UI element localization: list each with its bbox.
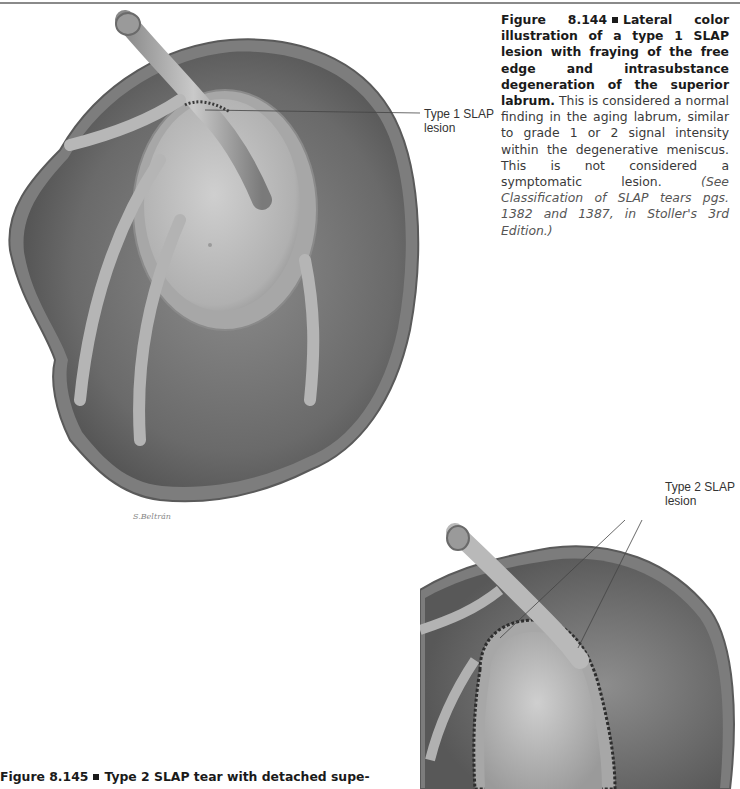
callout-line-1: Type 1 SLAP	[424, 107, 494, 121]
type-2-slap-callout: Type 2 SLAP lesion	[665, 480, 735, 508]
figure-145-lead: Type 2 SLAP tear with detached supe-	[104, 769, 369, 784]
callout-line-1: Type 2 SLAP	[665, 480, 735, 494]
callout-line-2: lesion	[665, 494, 735, 508]
illustrator-signature: S.Beltrán	[133, 512, 171, 521]
figure-145-illustration	[420, 520, 740, 789]
figure-144-caption: Figure 8.144Lateral color illustration o…	[501, 12, 729, 239]
type-1-slap-callout: Type 1 SLAP lesion	[424, 107, 494, 135]
bullet-icon	[612, 17, 618, 23]
figure-145-caption: Figure 8.145Type 2 SLAP tear with detach…	[0, 769, 420, 785]
figure-145-label: Figure 8.145	[0, 769, 88, 784]
bullet-icon	[93, 774, 99, 780]
figure-144-label: Figure 8.144	[501, 12, 607, 27]
callout-line-2: lesion	[424, 121, 494, 135]
figure-144-illustration	[0, 0, 500, 530]
